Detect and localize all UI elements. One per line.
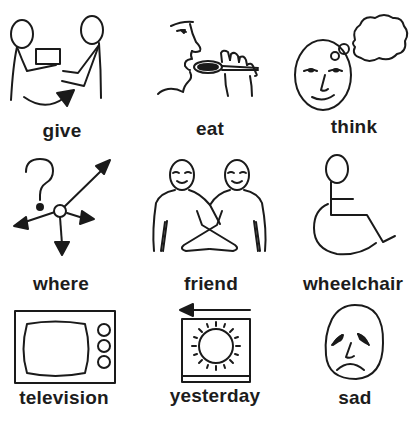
give-icon <box>0 0 140 120</box>
symbol-label: eat <box>196 118 224 140</box>
where-icon <box>0 145 140 275</box>
symbol-card-wheelchair: wheelchair <box>280 145 420 300</box>
symbol-label: think <box>331 116 377 138</box>
symbol-card-television: television <box>0 295 140 421</box>
think-icon <box>280 0 420 120</box>
eat-icon <box>140 0 280 120</box>
symbol-card-yesterday: yesterday <box>140 295 280 421</box>
television-icon <box>0 295 140 395</box>
symbol-card-think: think <box>280 0 420 145</box>
sad-icon <box>280 295 420 395</box>
symbol-label: sad <box>338 387 371 409</box>
wheelchair-icon <box>280 145 420 275</box>
symbol-card-eat: eat <box>140 0 280 145</box>
symbol-label: television <box>19 387 109 409</box>
yesterday-icon <box>140 295 280 395</box>
friend-icon <box>140 145 280 275</box>
symbol-label: wheelchair <box>303 273 403 295</box>
symbol-label: where <box>33 273 89 295</box>
symbol-card-friend: friend <box>140 145 280 300</box>
symbol-card-give: give <box>0 0 140 145</box>
symbol-label: give <box>43 120 82 142</box>
symbol-label: yesterday <box>170 385 261 407</box>
symbol-card-where: where <box>0 145 140 300</box>
symbol-label: friend <box>184 273 238 295</box>
symbol-card-sad: sad <box>280 295 420 421</box>
